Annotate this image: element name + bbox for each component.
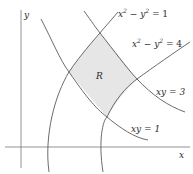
- region-r: [69, 33, 137, 117]
- diagram-canvas: y x R x2 − y2 = 1 x2 − y2 = 4 xy = 3 xy …: [0, 0, 193, 174]
- label-xy-3: xy = 3: [156, 87, 185, 97]
- label-hyperbola-4: x2 − y2 = 4: [132, 37, 182, 49]
- label-xy-1: xy = 1: [131, 124, 160, 134]
- label-hyperbola-1: x2 − y2 = 1: [118, 7, 168, 19]
- region-label: R: [95, 71, 103, 81]
- x-axis-label: x: [179, 150, 184, 160]
- y-axis-label: y: [23, 10, 30, 20]
